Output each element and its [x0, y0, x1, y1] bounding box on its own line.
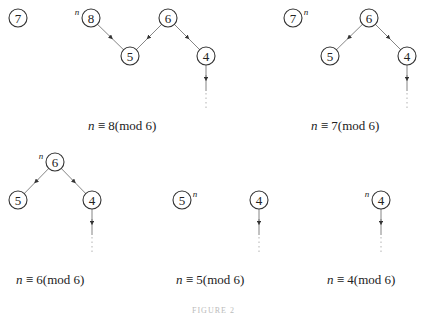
node-5: 5 [9, 191, 27, 209]
node-label: 4 [378, 193, 385, 208]
arrow-icon [387, 36, 389, 38]
node-4: 4 [197, 47, 215, 65]
caption-mod8: n ≡ 8(mod 6) [88, 118, 156, 134]
node-6: 6 [360, 9, 378, 27]
node-label: 4 [203, 49, 210, 64]
caption-var: n [88, 118, 95, 133]
nodes-layer: 78n5647n6546n545n44n [9, 7, 416, 209]
node-4: 4 [250, 191, 268, 209]
node-label: 5 [327, 49, 334, 64]
node-label: 6 [165, 11, 172, 26]
caption-var: n [327, 272, 334, 287]
arrow-icon [186, 36, 188, 38]
node-5: 5 [321, 47, 339, 65]
caption-mod7: n ≡ 7(mod 6) [311, 118, 379, 134]
node-label: 5 [127, 49, 134, 64]
caption-var: n [311, 118, 318, 133]
caption-mod5: n ≡ 5(mod 6) [176, 272, 244, 288]
caption-mod4: n ≡ 4(mod 6) [327, 272, 395, 288]
caption-var: n [16, 272, 23, 287]
node-7: 7n [284, 7, 309, 27]
caption-text: ≡ 8(mod 6) [98, 118, 157, 133]
node-4: 4n [365, 189, 390, 209]
node-label: 7 [15, 11, 22, 26]
node-5: 5 [121, 47, 139, 65]
node-7: 7 [9, 9, 27, 27]
arrow-icon [109, 36, 111, 38]
arrow-icon [148, 36, 150, 38]
node-label: 6 [366, 11, 373, 26]
arrow-icon [349, 36, 351, 38]
node-4: 4 [83, 191, 101, 209]
edges-layer [24, 24, 407, 253]
caption-text: ≡ 6(mod 6) [26, 272, 85, 287]
node-5: 5n [173, 189, 198, 209]
caption-text: ≡ 5(mod 6) [186, 272, 245, 287]
node-superscript: n [39, 151, 44, 161]
arrow-icon [72, 180, 74, 182]
node-label: 4 [89, 193, 96, 208]
node-label: 4 [256, 193, 263, 208]
node-superscript: n [75, 7, 80, 17]
node-label: 6 [52, 155, 59, 170]
node-4: 4 [398, 47, 416, 65]
arrow-icon [36, 180, 38, 182]
caption-text: ≡ 4(mod 6) [337, 272, 396, 287]
node-8: 8n [75, 7, 100, 27]
node-label: 4 [404, 49, 411, 64]
node-label: 7 [290, 11, 297, 26]
diagram-canvas: 78n5647n6546n545n44n [0, 0, 425, 316]
node-label: 5 [15, 193, 22, 208]
node-6: 6n [39, 151, 64, 171]
figure-label: FIGURE 2 [192, 306, 235, 315]
caption-mod6: n ≡ 6(mod 6) [16, 272, 84, 288]
node-superscript: n [193, 189, 198, 199]
node-label: 5 [179, 193, 186, 208]
caption-var: n [176, 272, 183, 287]
node-label: 8 [88, 11, 95, 26]
caption-text: ≡ 7(mod 6) [321, 118, 380, 133]
node-superscript: n [365, 189, 370, 199]
node-6: 6 [159, 9, 177, 27]
node-superscript: n [304, 7, 309, 17]
